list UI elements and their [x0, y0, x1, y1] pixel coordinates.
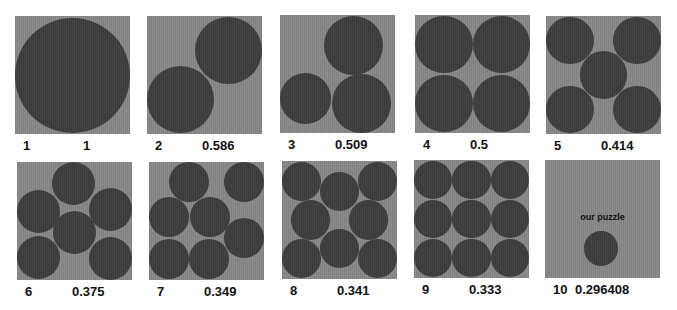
circle-count-label: 1 [23, 138, 30, 153]
packed-circle [414, 239, 452, 277]
packed-circle [149, 197, 189, 237]
packed-circle [224, 218, 264, 258]
unit-square [546, 16, 661, 134]
circle-count-label: 2 [155, 138, 162, 153]
packed-circle [53, 211, 96, 254]
radius-value-label: 0.341 [337, 283, 370, 298]
unit-square [282, 161, 397, 279]
unit-square [17, 162, 132, 280]
packed-circle [473, 16, 531, 74]
unit-square [280, 15, 395, 133]
circle-count-label: 5 [554, 138, 561, 153]
unit-square [149, 162, 264, 280]
packed-circle [473, 75, 531, 133]
circle-count-label: 4 [423, 137, 430, 152]
radius-value-label: 0.349 [204, 284, 237, 299]
unit-square: our puzzle [545, 160, 660, 278]
packed-circle [149, 239, 189, 279]
circle-count-label: 10 [553, 282, 567, 297]
radius-value-label: 0.509 [335, 137, 368, 152]
packed-circle [291, 200, 330, 239]
packed-circle [452, 200, 490, 238]
packed-circle [414, 200, 452, 238]
radius-value-label: 0.5 [470, 137, 488, 152]
packed-circle [491, 200, 529, 238]
packed-circle [358, 162, 397, 201]
packed-circle [169, 162, 209, 202]
circle-count-label: 9 [422, 282, 429, 297]
packed-circle [282, 239, 321, 278]
packed-circle [358, 239, 397, 278]
packed-circle [15, 18, 130, 133]
packed-circle [89, 188, 132, 231]
packed-circle [415, 75, 473, 133]
packed-circle [613, 17, 661, 65]
radius-value-label: 1 [83, 138, 90, 153]
circle-count-label: 6 [25, 284, 32, 299]
unit-square [414, 160, 529, 278]
packed-circle [89, 237, 132, 280]
packed-circle [224, 162, 264, 202]
packed-circle [491, 239, 529, 277]
packed-circle [195, 17, 262, 84]
packed-circle [613, 86, 661, 134]
packed-circle [546, 86, 594, 134]
circle-count-label: 8 [290, 283, 297, 298]
packed-circle [415, 16, 473, 74]
packed-circle [491, 161, 529, 199]
packed-circle [414, 161, 452, 199]
circle-count-label: 3 [288, 137, 295, 152]
radius-value-label: 0.375 [72, 284, 105, 299]
packed-circle [189, 239, 229, 279]
packed-circle [584, 231, 618, 265]
packed-circle [324, 16, 383, 75]
unit-square [15, 16, 130, 134]
radius-value-label: 0.296408 [575, 282, 629, 297]
circle-count-label: 7 [157, 284, 164, 299]
packed-circle [282, 162, 321, 201]
radius-value-label: 0.586 [202, 138, 235, 153]
packed-circle [452, 161, 490, 199]
puzzle-note: our puzzle [545, 212, 660, 222]
packed-circle [332, 74, 391, 133]
packed-circle [349, 200, 388, 239]
packed-circle [52, 162, 95, 205]
unit-square [415, 15, 530, 133]
packed-circle [320, 229, 359, 268]
radius-value-label: 0.414 [601, 138, 634, 153]
packed-circle [17, 236, 60, 279]
radius-value-label: 0.333 [469, 282, 502, 297]
packed-circle [280, 73, 331, 124]
packed-circle [452, 239, 490, 277]
unit-square [147, 16, 262, 134]
packed-circle [147, 66, 214, 133]
